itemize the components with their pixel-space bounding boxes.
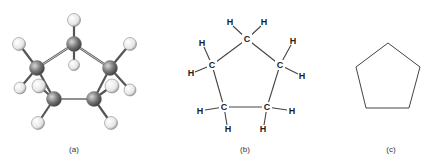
hydrogen-label: H (260, 124, 267, 134)
carbon-atom (87, 92, 102, 107)
carbon-atom (47, 92, 62, 107)
hydrogen-label: H (299, 71, 306, 81)
hydrogen-atom (32, 117, 45, 130)
hydrogen-label: H (289, 106, 296, 116)
hydrogen-atom (124, 38, 137, 51)
hydrogen-atom (13, 38, 26, 51)
carbon-label: C (264, 102, 271, 112)
panel-c-label: (c) (386, 145, 396, 154)
hydrogen-label: H (197, 106, 204, 116)
hydrogen-atom (14, 82, 26, 94)
panel-a-label: (a) (69, 145, 79, 154)
hydrogen-label: H (290, 36, 297, 46)
hydrogen-label: H (199, 38, 206, 48)
panel-c-skeletal-formula: (c) (356, 43, 420, 154)
carbon-atom (67, 37, 82, 52)
hydrogen-atom (124, 84, 136, 96)
cyclopentane-figure: (a) C C C C (0, 0, 428, 162)
carbon-label: C (244, 34, 251, 44)
carbon-label: C (221, 102, 228, 112)
hydrogen-atom (105, 79, 119, 93)
pentagon-ring (356, 43, 420, 108)
panel-b-label: (b) (240, 145, 250, 154)
hydrogen-atom (105, 117, 118, 130)
hydrogen-label: H (188, 68, 195, 78)
carbon-label: C (277, 60, 284, 70)
hydrogen-atom (69, 60, 80, 71)
carbon-atom (103, 61, 118, 76)
hydrogen-atom (32, 79, 46, 93)
hydrogen-label: H (225, 124, 232, 134)
panel-b-structural-formula: C C C C C H H H H H H H H H H (b) (188, 17, 306, 154)
atom-labels: C C C C C H H H H H H H H H H (188, 17, 306, 134)
hydrogen-label: H (227, 17, 234, 27)
panel-a-ball-and-stick-model: (a) (13, 14, 137, 155)
carbon-atom (30, 61, 45, 76)
carbon-label: C (209, 60, 216, 70)
hydrogen-label: H (261, 17, 268, 27)
hydrogen-atom (68, 14, 81, 27)
